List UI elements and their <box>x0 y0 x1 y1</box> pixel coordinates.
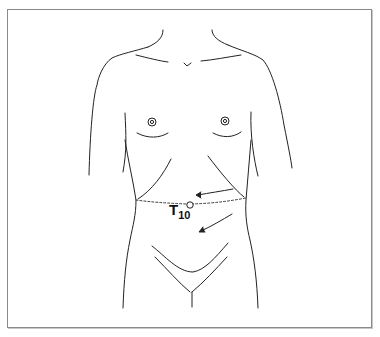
label-subscript: 10 <box>178 209 190 221</box>
markers <box>0 0 380 337</box>
label-main: T <box>169 201 178 218</box>
t10-label: T10 <box>169 202 190 221</box>
nipple-right-icon <box>221 117 229 125</box>
nipple-left-icon <box>148 118 156 126</box>
